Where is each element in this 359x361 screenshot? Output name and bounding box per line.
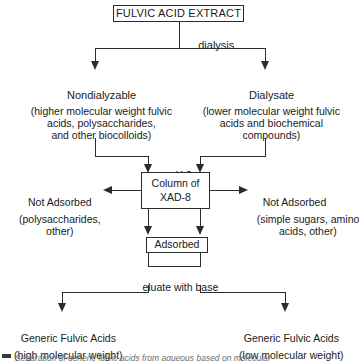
caption-figure-text: Separation of generic fulvic acids from … [0,353,359,361]
node-column-xad8-line1: Column of [152,177,200,190]
connector-dialysis-split-bar [95,48,266,49]
connector-adsorbed-down-right [200,253,201,266]
arrowhead-to-dialysate [261,61,269,70]
node-column-xad8: Column of XAD-8 [141,172,210,209]
connector-nondialyzable-across [95,156,149,157]
flowchart-diagram: FULVIC ACID EXTRACT dialysis Nondialyzab… [0,0,359,361]
connector-eluate-down-right [200,285,201,292]
connector-column-to-not-adsorbed-left [112,190,142,191]
label-eluate-with-base: eluate with base [114,269,235,306]
node-column-xad8-line2: XAD-8 [160,191,191,204]
connector-final-split-right-bar [200,292,286,293]
connector-column-to-not-adsorbed-right [210,190,240,191]
arrowhead-to-generic-high [58,303,66,312]
arrowhead-not-adsorbed-left [103,186,112,194]
connector-adsorbed-down-left [148,253,149,266]
label-dialysis: dialysis [186,26,266,65]
label-not-adsorbed-left-detail-2: other) [2,213,106,250]
connector-dialysis-right-down [265,48,266,62]
connector-nondialyzable-down [95,138,96,156]
connector-eluate-down-left [148,285,149,292]
connector-dialysate-across [200,156,266,157]
arrowhead-to-adsorbed-left [144,226,152,235]
connector-final-split-left-bar [62,292,149,293]
connector-dialysate-down [265,138,266,156]
connector-dialysis-left-down [95,48,96,62]
arrowhead-to-adsorbed-right [196,226,204,235]
connector-adsorbed-join-bar [148,266,201,267]
node-adsorbed: Adsorbed [146,237,208,253]
arrowhead-to-generic-low [281,303,289,312]
node-fulvic-acid-extract-label: FULVIC ACID EXTRACT [116,7,241,21]
node-fulvic-acid-extract: FULVIC ACID EXTRACT [113,5,244,22]
arrowhead-not-adsorbed-right [239,186,248,194]
label-not-adsorbed-right-detail-2: acids, other) [245,213,359,250]
node-adsorbed-label: Adsorbed [155,238,200,251]
arrowhead-to-nondialyzable [91,61,99,70]
connector-extract-to-dialysis [179,22,180,49]
